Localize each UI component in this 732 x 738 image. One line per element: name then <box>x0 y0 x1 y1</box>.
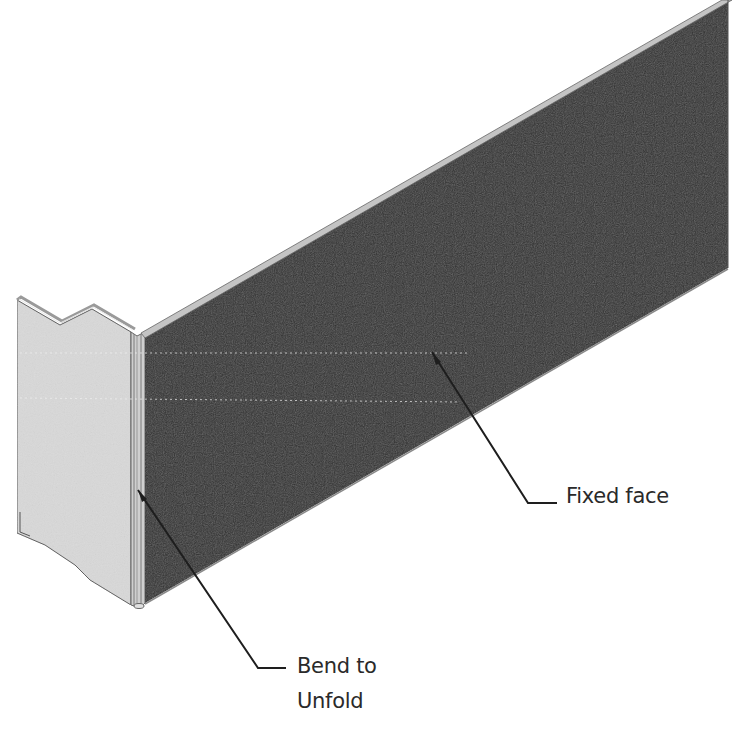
flange-face <box>17 300 131 605</box>
fixed-face-label: Fixed face <box>566 479 669 514</box>
sheet-metal-diagram <box>0 0 732 738</box>
bend-region <box>131 332 145 609</box>
bend-to-unfold-label: Bend to Unfold <box>297 649 377 719</box>
bend-label-line1: Bend to <box>297 649 377 684</box>
bend-label-line2: Unfold <box>297 684 377 719</box>
flange-panel <box>17 297 135 605</box>
